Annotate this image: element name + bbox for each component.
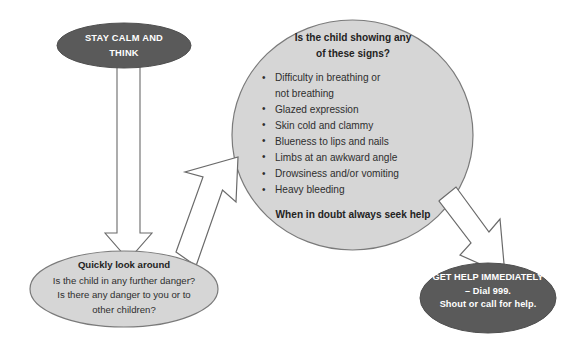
arrow-look-around-to-signs [176, 157, 238, 266]
signs-ellipse [232, 20, 473, 250]
arrow-signs-to-get-help [439, 187, 505, 275]
arrow-stay-calm-to-look-around [105, 62, 152, 260]
flowchart-canvas [0, 0, 575, 344]
get-help-ellipse [420, 263, 556, 333]
stay-calm-ellipse [57, 23, 191, 68]
look-around-ellipse [30, 251, 218, 327]
